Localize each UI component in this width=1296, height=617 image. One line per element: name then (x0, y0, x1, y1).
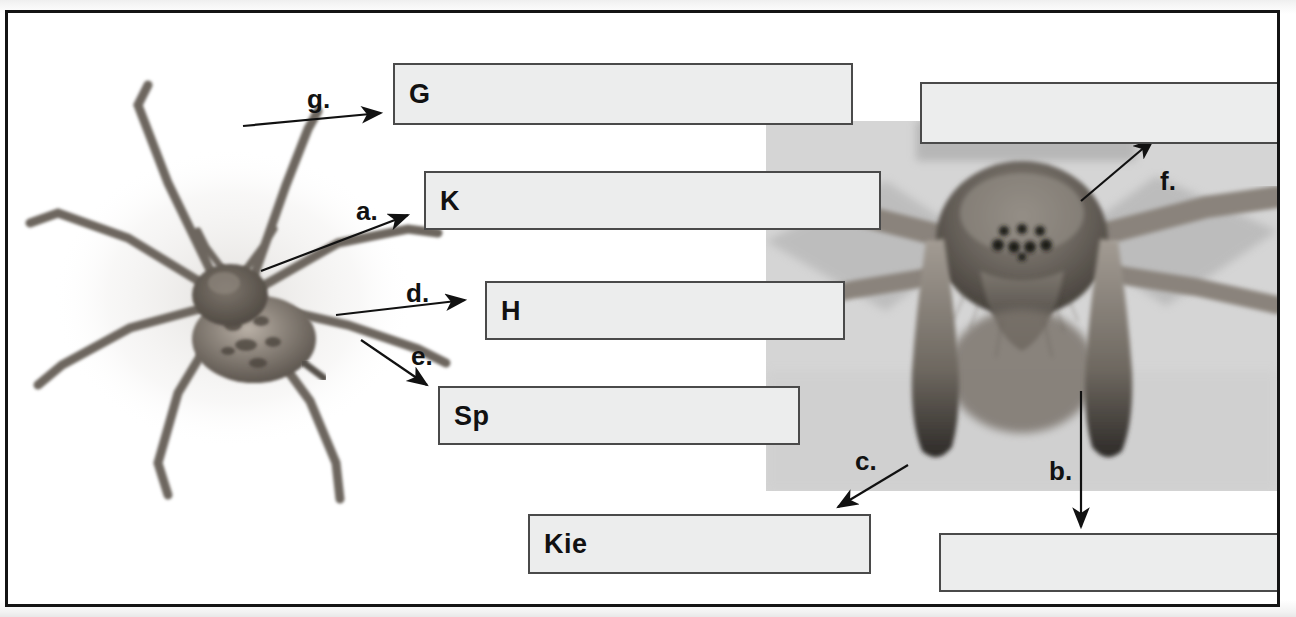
answer-box-k[interactable]: K (424, 171, 881, 230)
answer-box-g[interactable]: G (393, 63, 853, 125)
answer-box-h-letter: H (501, 298, 521, 325)
figure-canvas: g. a. d. e. c. b. f. G K H Sp Kie (8, 13, 1277, 604)
marker-label-f: f. (1160, 168, 1176, 194)
worksheet-sheet: g. a. d. e. c. b. f. G K H Sp Kie (0, 0, 1296, 617)
answer-box-kie[interactable]: Kie (528, 514, 871, 574)
marker-label-c: c. (855, 448, 877, 474)
figure-frame: g. a. d. e. c. b. f. G K H Sp Kie (5, 10, 1280, 607)
marker-label-b: b. (1049, 458, 1072, 484)
answer-box-h[interactable]: H (485, 281, 845, 340)
answer-box-b[interactable] (939, 533, 1277, 592)
marker-label-g: g. (307, 86, 330, 112)
answer-box-sp-letter: Sp (454, 403, 490, 430)
answer-box-f[interactable] (920, 82, 1277, 144)
marker-label-d: d. (406, 280, 429, 306)
answer-box-kie-letter: Kie (544, 531, 588, 558)
marker-label-a: a. (356, 198, 378, 224)
answer-box-g-letter: G (409, 81, 431, 108)
answer-box-k-letter: K (440, 188, 460, 215)
marker-label-e: e. (411, 343, 433, 369)
answer-box-sp[interactable]: Sp (438, 386, 800, 445)
